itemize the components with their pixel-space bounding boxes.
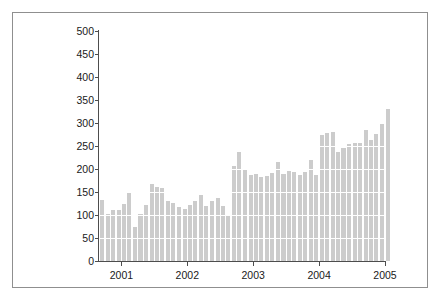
bar <box>292 172 296 261</box>
bar <box>117 210 121 261</box>
bar <box>111 210 115 261</box>
y-axis-tick-mark <box>95 123 99 124</box>
x-axis-tick-mark <box>187 262 188 266</box>
y-axis-tick-label: 500 <box>60 26 94 36</box>
bar <box>155 187 159 261</box>
x-axis-tick-label: 2005 <box>365 269 405 281</box>
bar <box>199 195 203 261</box>
bar <box>281 174 285 261</box>
bar <box>150 184 154 261</box>
bar <box>166 201 170 261</box>
y-axis-tick-label: 200 <box>60 164 94 174</box>
bar <box>254 174 258 261</box>
gridline-overlay <box>99 77 385 78</box>
y-axis-tick-mark <box>95 31 99 32</box>
bar <box>127 193 131 261</box>
x-axis-tick-mark <box>121 262 122 266</box>
gridline-overlay <box>99 169 385 170</box>
bar <box>259 177 263 261</box>
y-axis-tick-label: 400 <box>60 72 94 82</box>
gridline-overlay <box>99 54 385 55</box>
bar <box>320 135 324 261</box>
gridline-overlay <box>99 192 385 193</box>
bar <box>331 132 335 261</box>
y-axis-tick-label: 250 <box>60 141 94 151</box>
y-axis-tick-mark <box>95 169 99 170</box>
bar <box>325 133 329 261</box>
bar <box>353 143 357 261</box>
y-axis-tick-mark <box>95 192 99 193</box>
x-axis-tick-mark <box>319 262 320 266</box>
x-axis-tick-label: 2002 <box>167 269 207 281</box>
bar <box>303 172 307 261</box>
gridline-overlay <box>99 31 385 32</box>
y-axis-tick-label: 300 <box>60 118 94 128</box>
bar <box>341 148 345 261</box>
bar <box>133 227 137 261</box>
bar <box>374 134 378 261</box>
bar <box>364 130 368 261</box>
y-axis-tick-labels: 050100150200250300350400450500 <box>58 0 94 302</box>
bar <box>100 200 104 261</box>
gridline-overlay <box>99 215 385 216</box>
y-axis-tick-label: 0 <box>60 256 94 266</box>
y-axis-tick-label: 350 <box>60 95 94 105</box>
y-axis-tick-mark <box>95 146 99 147</box>
y-axis-tick-mark <box>95 77 99 78</box>
bar <box>309 160 313 261</box>
y-axis-tick-mark <box>95 100 99 101</box>
y-axis-tick-mark <box>95 54 99 55</box>
y-axis-tick-mark <box>95 238 99 239</box>
bar <box>160 188 164 261</box>
x-axis-tick-mark <box>253 262 254 266</box>
x-axis-tick-mark <box>385 262 386 266</box>
gridline-overlay <box>99 100 385 101</box>
y-axis-tick-mark <box>95 215 99 216</box>
bar <box>386 109 390 261</box>
bar <box>358 143 362 261</box>
x-axis-spine <box>98 261 386 262</box>
x-axis-tick-label: 2001 <box>101 269 141 281</box>
plot-area <box>99 31 385 261</box>
bar <box>188 205 192 261</box>
x-axis-tick-label: 2003 <box>233 269 273 281</box>
chart-figure: Thousands of Units 050100150200250300350… <box>0 0 444 302</box>
y-axis-tick-label: 450 <box>60 49 94 59</box>
bar <box>122 204 126 261</box>
bar <box>270 173 274 261</box>
gridline-overlay <box>99 123 385 124</box>
x-axis-tick-label: 2004 <box>299 269 339 281</box>
bar <box>232 166 236 261</box>
y-axis-tick-mark <box>95 261 99 262</box>
bar <box>193 201 197 261</box>
bar <box>276 162 280 261</box>
bar <box>347 144 351 261</box>
bar <box>216 198 220 261</box>
bar <box>314 175 318 261</box>
bar <box>210 201 214 261</box>
bar <box>298 175 302 261</box>
gridline-overlay <box>99 238 385 239</box>
bar <box>183 209 187 261</box>
y-axis-tick-label: 50 <box>60 233 94 243</box>
bar <box>171 203 175 261</box>
bar <box>249 175 253 261</box>
gridline-overlay <box>99 146 385 147</box>
bar <box>265 176 269 261</box>
bar <box>369 140 373 261</box>
y-axis-tick-label: 150 <box>60 187 94 197</box>
y-axis-tick-label: 100 <box>60 210 94 220</box>
bar <box>287 171 291 261</box>
